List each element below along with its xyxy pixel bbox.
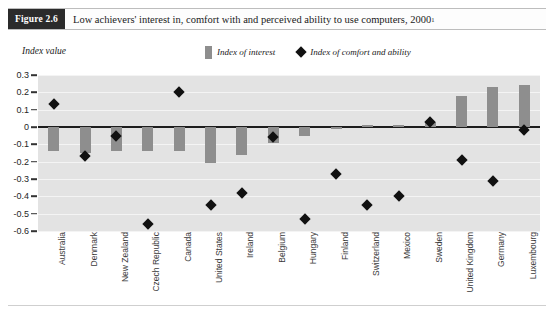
diamond-swatch-icon — [295, 46, 306, 57]
gridline — [38, 75, 540, 76]
diamond-australia — [48, 99, 59, 110]
chart-legend: Index of interest Index of comfort and a… — [205, 44, 495, 60]
x-axis-label-czech-republic: Czech Republic — [151, 232, 161, 292]
y-axis-tick-label: -0.6 — [13, 226, 29, 236]
x-axis-label-finland: Finland — [340, 232, 350, 260]
plot-area — [38, 75, 540, 231]
gridline — [38, 92, 540, 93]
bar-czech-republic — [142, 127, 153, 151]
diamond-canada — [174, 87, 185, 98]
x-axis-label-germany: Germany — [496, 232, 506, 267]
y-axis-tick-mark — [31, 230, 37, 232]
bar-swatch-icon — [205, 46, 212, 59]
y-axis-tick-label: -0.2 — [13, 157, 29, 167]
x-axis-label-ireland: Ireland — [245, 232, 255, 258]
gridline — [38, 179, 540, 180]
bar-denmark — [80, 127, 91, 153]
y-axis-tick-mark — [31, 178, 37, 180]
y-axis-tick-mark — [31, 144, 37, 146]
legend-item-index-of-interest: Index of interest — [205, 46, 275, 59]
x-axis-labels: AustraliaDenmarkNew ZealandCzech Republi… — [38, 232, 540, 312]
x-axis-label-united-kingdom: United Kingdom — [465, 232, 475, 292]
x-axis-label-switzerland: Switzerland — [371, 232, 381, 276]
footer-divider — [8, 305, 546, 306]
diamond-united-states — [205, 199, 216, 210]
bar-germany — [487, 87, 498, 127]
y-axis: 0.30.20.10-0.1-0.2-0.3-0.4-0.5-0.6 — [0, 70, 38, 236]
gridline — [38, 196, 540, 197]
diamond-germany — [487, 175, 498, 186]
diamond-switzerland — [362, 199, 373, 210]
y-axis-tick-mark — [31, 196, 37, 198]
y-axis-tick-mark — [31, 161, 37, 163]
x-axis-label-sweden: Sweden — [434, 232, 444, 263]
y-axis-tick-mark — [31, 74, 37, 76]
gridline — [38, 214, 540, 215]
y-axis-title: Index value — [22, 46, 66, 56]
diamond-czech-republic — [142, 218, 153, 229]
x-axis-label-luxembourg: Luxembourg — [528, 232, 538, 279]
legend-label-index-of-comfort-and-ability: Index of comfort and ability — [310, 47, 410, 57]
bar-luxembourg — [519, 85, 530, 127]
x-axis-label-australia: Australia — [57, 232, 67, 265]
y-axis-tick-label: 0.3 — [16, 70, 29, 80]
y-axis-tick-label: -0.3 — [13, 174, 29, 184]
bar-mexico — [393, 125, 404, 127]
bar-switzerland — [362, 125, 373, 127]
y-axis-tick-label: -0.1 — [13, 139, 29, 149]
x-axis-label-denmark: Denmark — [89, 232, 99, 266]
y-axis-tick-label: -0.4 — [13, 191, 29, 201]
legend-label-index-of-interest: Index of interest — [217, 47, 275, 57]
y-axis-tick-label: 0 — [24, 122, 29, 132]
bar-canada — [174, 127, 185, 151]
y-axis-tick-mark — [31, 213, 37, 215]
x-axis-label-belgium: Belgium — [277, 232, 287, 263]
figure-title: Low achievers' interest in, comfort with… — [65, 9, 434, 29]
legend-item-index-of-comfort-and-ability: Index of comfort and ability — [297, 47, 410, 57]
figure-number-badge: Figure 2.6 — [8, 9, 65, 29]
diamond-united-kingdom — [456, 154, 467, 165]
x-axis-label-mexico: Mexico — [402, 232, 412, 259]
bar-united-states — [205, 127, 216, 163]
bar-australia — [48, 127, 59, 151]
x-axis-label-hungary: Hungary — [308, 232, 318, 264]
figure-title-text: Low achievers' interest in, comfort with… — [73, 14, 431, 25]
y-axis-tick-mark — [31, 109, 37, 111]
y-axis-tick-label: -0.5 — [13, 209, 29, 219]
diamond-finland — [330, 168, 341, 179]
bar-finland — [331, 127, 342, 129]
x-axis-label-united-states: United States — [214, 232, 224, 283]
y-axis-tick-label: 0.1 — [16, 105, 29, 115]
x-axis-label-new-zealand: New Zealand — [120, 232, 130, 282]
bar-united-kingdom — [456, 96, 467, 127]
diamond-hungary — [299, 213, 310, 224]
y-axis-tick-mark — [31, 126, 37, 128]
figure-header: Figure 2.6 Low achievers' interest in, c… — [8, 8, 546, 30]
x-axis-label-canada: Canada — [183, 232, 193, 262]
y-axis-tick-mark — [31, 92, 37, 94]
bar-ireland — [236, 127, 247, 155]
diamond-mexico — [393, 191, 404, 202]
y-axis-tick-label: 0.2 — [16, 87, 29, 97]
figure-title-footnote-marker: 1 — [431, 16, 434, 23]
bar-hungary — [299, 127, 310, 136]
